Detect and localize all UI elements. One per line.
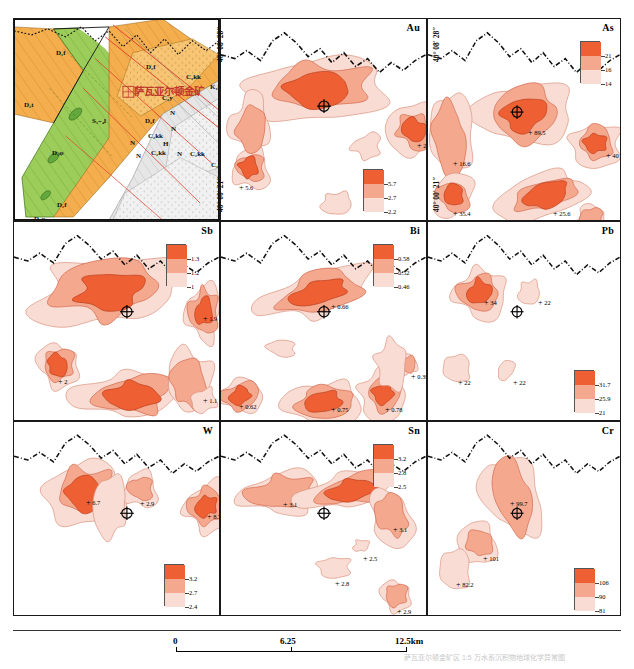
sample-value: + 2.9 (140, 499, 154, 508)
panel-Pb[interactable]: Pb+ 34+ 22+ 22+ 2231.725.921 (427, 221, 621, 421)
sample-cross-icon: + (458, 378, 463, 387)
legend-Cr: 1069081 (574, 568, 618, 610)
legend-value-text: 2.2 (388, 208, 396, 215)
sample-value: + 3.1 (283, 500, 297, 509)
geo-unit-label: K₁kz (210, 83, 220, 91)
sample-value-text: 6.7 (92, 499, 100, 506)
legend-value-text: 2.8 (398, 469, 406, 476)
legend-value: 16 (601, 66, 612, 73)
sample-value-text: 35.4 (459, 210, 470, 217)
scale-label-1: 6.25 (280, 636, 296, 646)
sample-cross-icon: + (385, 405, 390, 414)
legend-value: 0.52 (394, 269, 409, 276)
geo-unit-label: N (170, 109, 175, 117)
legend-value: 106 (595, 579, 609, 586)
legend-value: 21 (595, 409, 606, 416)
legend-swatch-2 (374, 459, 394, 473)
panel-geological-map[interactable]: 萨瓦亚尔顿金矿 D₂tD₁fD₁φS₁₋₄lD₂fD₁φD₂fD₂fC₂kkK₁… (13, 18, 220, 221)
legend-value-text: 2.5 (398, 483, 406, 490)
panel-Sb[interactable]: Sb+ 1.9+ 2+ 1.11.31.21 (13, 221, 220, 421)
contour-level-1 (320, 191, 351, 214)
legend-value-text: 25.9 (599, 395, 610, 402)
panel-Sn[interactable]: Sn+ 3.1+ 3.1+ 2.5+ 2.8+ 2.93.22.82.5 (220, 421, 427, 616)
sample-value: + 8.7 (207, 512, 220, 521)
legend-value: 1.2 (187, 269, 199, 276)
legend-Sn: 3.22.82.5 (373, 444, 417, 486)
geo-unit-label: D₂f (145, 117, 155, 125)
boundary-line (428, 236, 620, 275)
sample-cross-icon: + (553, 209, 558, 218)
legend-value-text: 2.7 (388, 194, 396, 201)
sample-cross-icon: + (207, 512, 212, 521)
legend-value-text: 3.2 (398, 455, 406, 462)
sample-value-text: 34 (490, 299, 497, 306)
sample-value: + 16.6 (453, 159, 471, 168)
legend-value: 1.3 (187, 255, 199, 262)
sample-value-text: 3.1 (289, 501, 297, 508)
panel-Au[interactable]: Au+ 5.6+ 2.5+ 2.3+ 235.72.72.2 (220, 18, 427, 221)
legend-value-text: 3.2 (189, 575, 197, 582)
geo-unit-label: N (171, 125, 176, 133)
sample-value-text: 0.78 (391, 406, 402, 413)
sample-value: + 101 (483, 554, 499, 563)
sample-cross-icon: + (335, 579, 340, 588)
legend-value-text: 16 (605, 66, 612, 73)
coord-right-bottom-2: 40° 00′ 21″ (432, 176, 441, 212)
sample-cross-icon: + (456, 580, 461, 589)
sample-value: + 0.39 (411, 372, 427, 381)
panel-As[interactable]: As+ 89.5+ 16.6+ 40+ 35.4+ 25.6+ 17.52116… (427, 18, 621, 221)
legend-swatches (574, 568, 594, 610)
legend-value: 2.5 (394, 483, 406, 490)
sample-cross-icon: + (283, 500, 288, 509)
legend-value: 14 (601, 80, 612, 87)
geo-unit-label: C₂kk (190, 150, 205, 158)
legend-value: 2.8 (394, 469, 406, 476)
sample-cross-icon: + (363, 554, 368, 563)
sample-value-text: 2.8 (341, 580, 349, 587)
legend-value: 25.9 (595, 395, 610, 402)
sample-cross-icon: + (513, 378, 518, 387)
sample-cross-icon: + (331, 405, 336, 414)
legend-swatch-3 (575, 399, 595, 413)
legend-swatch-1 (364, 170, 384, 184)
panel-title-Sn: Sn (408, 425, 420, 436)
legend-Pb: 31.725.921 (574, 370, 618, 412)
legend-value: 2.2 (384, 208, 396, 215)
legend-swatch-2 (374, 259, 394, 273)
scale-tick-0 (176, 647, 177, 652)
sample-value: + 0.62 (239, 402, 257, 411)
legend-swatch-2 (165, 579, 185, 593)
legend-swatch-3 (364, 198, 384, 212)
sample-cross-icon: + (510, 499, 515, 508)
legend-value-text: 90 (599, 593, 606, 600)
deposit-name-label: 萨瓦亚尔顿金矿 (134, 83, 204, 98)
sample-value: + 0.66 (331, 302, 349, 311)
geo-unit-label: D₁f (56, 49, 66, 57)
geo-unit-label: N (177, 150, 182, 158)
figure-root: 萨瓦亚尔顿金矿 D₂tD₁fD₁φS₁₋₄lD₂fD₁φD₂fD₂fC₂kkK₁… (0, 0, 634, 669)
legend-value-text: 106 (599, 579, 609, 586)
legend-Sb: 1.31.21 (166, 244, 210, 286)
legend-value-text: 21 (599, 409, 606, 416)
sample-cross-icon: + (86, 498, 91, 507)
panel-Cr[interactable]: Cr+ 99.7+ 101+ 82.21069081 (427, 421, 621, 616)
legend-swatch-1 (374, 245, 394, 259)
legend-As: 211614 (580, 41, 621, 83)
contour-level-1 (517, 279, 539, 304)
legend-swatches (574, 370, 594, 412)
sample-value: + 5.6 (239, 183, 253, 192)
legend-swatches (164, 564, 184, 606)
panel-W[interactable]: W+ 6.7+ 2.9+ 8.73.22.72.4 (13, 421, 220, 616)
sample-cross-icon: + (331, 302, 336, 311)
boundary-line (14, 435, 219, 473)
legend-value-text: 0.52 (398, 269, 409, 276)
legend-value: 2.4 (185, 603, 197, 610)
sample-value: + 2 (58, 377, 67, 386)
sample-value: + 22 (458, 378, 471, 387)
sample-value: + 6.7 (86, 498, 100, 507)
sample-value-text: 16.6 (459, 160, 470, 167)
coord-right-top: 40° 08′ 28″ (216, 26, 225, 62)
panel-Bi[interactable]: Bi+ 0.66+ 0.39+ 0.62+ 0.75+ 0.780.580.52… (220, 221, 427, 421)
legend-value-text: 1 (191, 283, 194, 290)
sample-cross-icon: + (453, 159, 458, 168)
